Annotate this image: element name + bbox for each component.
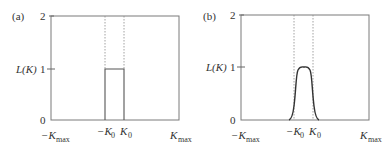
ytick-label-0-a: 0 <box>40 114 46 126</box>
svg-text:0: 0 <box>317 131 321 140</box>
xtick-label-neg-kmax-a: −K max <box>41 129 70 144</box>
ytick-label-1-a: 1 <box>40 63 46 75</box>
panel-label-a: (a) <box>12 10 25 23</box>
ytick-label-2-b: 2 <box>230 9 236 21</box>
xtick-label-neg-k0-a: −K 0 <box>97 125 115 140</box>
ytick-label-2-a: 2 <box>40 10 46 22</box>
panel-label-b: (b) <box>203 10 216 23</box>
svg-text:−K: −K <box>41 129 56 141</box>
ytick-label-1-b: 1 <box>230 61 236 73</box>
svg-text:0: 0 <box>128 131 132 140</box>
figure: (a) 2 1 0 L(K) −K max −K 0 K 0 K ma <box>0 0 392 155</box>
xtick-label-neg-k0-b: −K 0 <box>286 125 304 140</box>
ylabel-a: L(K) <box>15 63 37 76</box>
panel-b: (b) 2 1 0 L(K) −K max −K 0 K 0 K ma <box>203 9 382 144</box>
xtick-label-kmax-b: K max <box>359 129 382 144</box>
svg-text:max: max <box>56 135 70 144</box>
svg-text:0: 0 <box>111 131 115 140</box>
svg-text:K: K <box>169 129 178 141</box>
svg-text:0: 0 <box>300 131 304 140</box>
svg-text:max: max <box>368 135 382 144</box>
xtick-label-neg-kmax-b: −K max <box>231 129 260 144</box>
plot-frame-a <box>51 16 179 120</box>
panel-a: (a) 2 1 0 L(K) −K max −K 0 K 0 K ma <box>12 10 192 144</box>
svg-text:K: K <box>359 129 368 141</box>
ytick-label-0-b: 0 <box>230 114 236 126</box>
svg-text:K: K <box>308 125 317 137</box>
xtick-label-k0-b: K 0 <box>308 125 321 140</box>
filter-curve-b <box>289 67 319 120</box>
xtick-label-k0-a: K 0 <box>119 125 132 140</box>
svg-text:K: K <box>119 125 128 137</box>
svg-text:max: max <box>178 135 192 144</box>
ylabel-b: L(K) <box>205 61 227 74</box>
filter-curve-a <box>105 69 124 120</box>
svg-text:−K: −K <box>231 129 246 141</box>
xtick-label-kmax-a: K max <box>169 129 192 144</box>
svg-text:max: max <box>246 135 260 144</box>
